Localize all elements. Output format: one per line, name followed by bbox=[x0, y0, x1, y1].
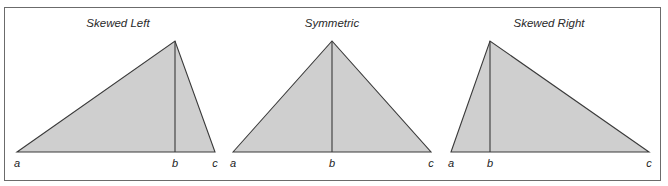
panel-skewed-right: Skewed Right a b c bbox=[448, 17, 652, 169]
label-b: b bbox=[172, 157, 178, 169]
label-a: a bbox=[14, 157, 20, 169]
label-c: c bbox=[646, 157, 652, 169]
panel-symmetric: Symmetric a b c bbox=[230, 17, 434, 169]
panel-skewed-left: Skewed Left a b c bbox=[14, 17, 218, 169]
panel-title: Symmetric bbox=[305, 17, 360, 29]
skewed-right-triangle bbox=[451, 41, 649, 152]
label-c: c bbox=[428, 157, 434, 169]
label-a: a bbox=[448, 157, 454, 169]
label-b: b bbox=[487, 157, 493, 169]
label-b: b bbox=[329, 157, 335, 169]
distribution-shapes-diagram: Skewed Left a b c Symmetric a b c Skewed… bbox=[0, 0, 668, 186]
panel-title: Skewed Left bbox=[86, 17, 150, 29]
label-c: c bbox=[212, 157, 218, 169]
label-a: a bbox=[230, 157, 236, 169]
panel-title: Skewed Right bbox=[514, 17, 586, 29]
skewed-left-triangle bbox=[17, 41, 215, 152]
